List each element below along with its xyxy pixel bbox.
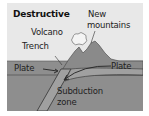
label-subduction-2: zone (57, 98, 76, 107)
destructive-boundary-diagram: Destructive New mountains Volcano Trench… (7, 3, 143, 111)
label-volcano: Volcano (31, 28, 63, 37)
label-plate-left: Plate (14, 64, 34, 73)
label-new-mountains-2: mountains (87, 21, 130, 30)
diagram-title: Destructive (13, 10, 70, 19)
label-new-mountains-1: New (88, 10, 106, 19)
label-plate-right: Plate (111, 62, 131, 71)
label-subduction-1: Subduction (57, 87, 103, 96)
label-trench: Trench (22, 42, 49, 51)
